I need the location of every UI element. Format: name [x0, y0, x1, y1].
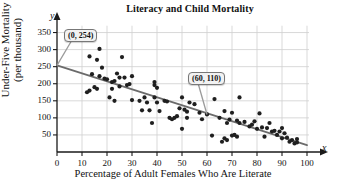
data-point	[252, 119, 256, 123]
data-point	[225, 138, 229, 142]
data-point	[192, 102, 196, 106]
data-point	[200, 117, 204, 121]
y-axis-variable-letter: y	[50, 10, 54, 21]
data-point	[185, 116, 189, 120]
data-point	[152, 95, 156, 99]
x-tick-label: 90	[272, 158, 292, 168]
data-point	[145, 100, 149, 104]
data-point	[117, 84, 121, 88]
data-point	[155, 100, 159, 104]
data-point	[295, 137, 299, 141]
data-point	[260, 125, 264, 129]
data-point	[90, 72, 94, 76]
data-point	[97, 74, 101, 78]
data-point	[112, 79, 116, 83]
data-point	[115, 71, 119, 75]
data-point	[210, 134, 214, 138]
data-point	[95, 58, 99, 62]
data-point	[187, 100, 191, 104]
y-tick-label: 100	[29, 112, 51, 122]
data-point	[87, 88, 91, 92]
data-point	[262, 135, 266, 139]
data-point	[277, 129, 281, 133]
y-tick-label: 250	[29, 61, 51, 71]
y-tick-label: 350	[29, 27, 51, 37]
data-point	[225, 121, 229, 125]
y-tick-label: 300	[29, 44, 51, 54]
x-tick-label: 60	[197, 158, 217, 168]
data-point	[217, 116, 221, 120]
data-point	[267, 121, 271, 125]
data-point	[122, 75, 126, 79]
x-tick-label: 40	[147, 158, 167, 168]
y-axis-label-line-1: Under-Five Mortality	[0, 0, 12, 110]
chart-figure: Literacy and Child Mortality Under-Five …	[0, 0, 338, 187]
data-point	[235, 135, 239, 139]
data-point	[140, 108, 144, 112]
data-point	[147, 108, 151, 112]
x-tick-label: 80	[247, 158, 267, 168]
data-points	[85, 47, 299, 146]
data-point	[130, 98, 134, 102]
data-point	[280, 126, 284, 130]
data-point	[285, 136, 289, 140]
data-point	[97, 47, 101, 51]
data-point	[142, 95, 146, 99]
data-point	[130, 74, 134, 78]
data-point	[185, 110, 189, 114]
data-point	[212, 97, 216, 101]
y-axis-label: Under-Five Mortality (per thousand)	[0, 0, 24, 110]
x-tick-label: 10	[72, 158, 92, 168]
data-point	[165, 99, 169, 103]
data-point	[227, 117, 231, 121]
x-tick-label: 100	[297, 158, 317, 168]
data-point	[155, 86, 159, 90]
y-tick-label: 150	[29, 95, 51, 105]
data-point	[180, 127, 184, 131]
data-point	[117, 75, 121, 79]
x-tick-label: 20	[97, 158, 117, 168]
x-axis-label: Percentage of Adult Females Who Are Lite…	[28, 168, 318, 179]
data-point	[127, 82, 131, 86]
x-tick-label: 70	[222, 158, 242, 168]
data-point	[282, 131, 286, 135]
data-point	[100, 66, 104, 70]
data-point	[230, 111, 234, 115]
x-tick-label: 30	[122, 158, 142, 168]
y-axis-label-line-2: (per thousand)	[12, 0, 24, 110]
data-point	[177, 106, 181, 110]
data-point	[197, 111, 201, 115]
data-point	[255, 127, 259, 131]
tick-marks	[53, 33, 307, 156]
data-point	[150, 121, 154, 125]
data-point	[112, 99, 116, 103]
data-point	[272, 129, 276, 133]
callout-point-0-254: (0, 254)	[64, 29, 97, 42]
data-point	[105, 77, 109, 81]
data-point	[175, 114, 179, 118]
data-point	[180, 95, 184, 99]
data-point	[250, 123, 254, 127]
data-point	[290, 138, 294, 142]
data-point	[237, 121, 241, 125]
data-point	[280, 136, 284, 140]
data-point	[265, 126, 269, 130]
data-point	[137, 99, 141, 103]
x-tick-label: 0	[47, 158, 67, 168]
data-point	[120, 55, 124, 59]
chart-title: Literacy and Child Mortality	[100, 3, 280, 14]
data-point	[237, 95, 241, 99]
data-point	[107, 95, 111, 99]
data-point	[257, 111, 261, 115]
data-point	[242, 120, 246, 124]
data-point	[110, 87, 114, 91]
data-point	[222, 109, 226, 113]
data-point	[275, 133, 279, 137]
data-point	[220, 140, 224, 144]
y-tick-label: 200	[29, 78, 51, 88]
data-point	[157, 109, 161, 113]
callout-point-60-110: (60, 110)	[188, 72, 225, 85]
x-tick-label: 50	[172, 158, 192, 168]
data-point	[95, 87, 99, 91]
x-axis-variable-letter: x	[322, 142, 326, 153]
